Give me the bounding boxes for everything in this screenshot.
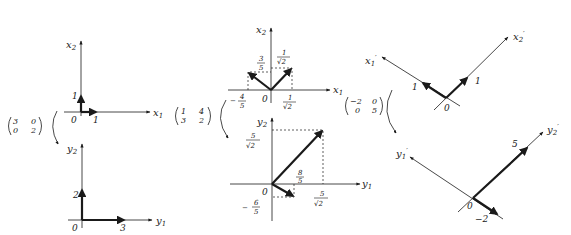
eigen-vector-1 (423, 83, 446, 98)
matrix-entry: 2 (198, 116, 204, 125)
panel-diag-output: y2 y1 2 3 0 (66, 143, 166, 233)
panel-diag-input: x2 x1 1 1 0 (64, 39, 163, 125)
panel-general-input: x2 x1 0 3 5 1 √2 − 4 5 1 √2 (228, 24, 343, 111)
origin-label: 0 (262, 94, 268, 104)
origin-label: 0 (262, 187, 268, 197)
matrix-entry: 4 (198, 107, 204, 116)
frac-num: 5 (320, 190, 325, 198)
vector-left (249, 73, 271, 90)
mapping-arrow (220, 100, 228, 138)
tick-label-b: 5 (512, 139, 518, 149)
matrix-diag: 3 0 0 2 (9, 111, 59, 144)
frac-den: 5 (298, 177, 303, 185)
origin-label: 0 (444, 103, 450, 113)
eigen-vector-2 (446, 78, 467, 98)
y1-axis-label: y1 (155, 215, 166, 228)
x2-axis-label: x2 (66, 39, 77, 52)
image-vector-small (272, 184, 293, 196)
linear-maps-diagram: x2 x1 1 1 0 3 0 0 2 y2 y1 2 3 0 x2 x1 0 (0, 0, 571, 235)
matrix-entry: 0 (372, 97, 377, 106)
matrix-eigen: −2 0 0 5 (346, 90, 397, 133)
y1-axis-label: y1 (361, 178, 372, 191)
frac-den: 5 (240, 102, 245, 110)
frac-den: √2 (246, 142, 255, 150)
frac-den: 5 (254, 208, 259, 216)
matrix-entry: 2 (30, 126, 36, 135)
y2-axis-label: y2 (256, 116, 268, 129)
x2-prime-axis (434, 37, 508, 110)
panel-eigen-output: y1′ y2′ 5 −2 0 (395, 123, 559, 224)
x1-prime-axis-label: x1′ (365, 54, 377, 68)
mapping-arrow (387, 90, 396, 133)
frac-num: 1 (282, 49, 286, 57)
matrix-entry: 3 (13, 117, 18, 126)
origin-label: 0 (72, 223, 78, 233)
origin-label: 0 (467, 201, 473, 211)
frac-den: √2 (314, 200, 323, 208)
matrix-entry: 3 (181, 116, 186, 125)
x1-prime-axis (382, 57, 460, 106)
panel-eigen-input: x1′ x2′ 1 1 0 (365, 30, 525, 113)
tick-label-x: 3 (120, 223, 126, 233)
tick-label-a: 1 (412, 82, 418, 92)
x2-axis-label: x2 (256, 24, 267, 37)
vector-right (271, 69, 291, 90)
matrix-entry: 1 (181, 107, 186, 116)
tick-label-x: 1 (93, 115, 99, 125)
frac-den: √2 (277, 58, 286, 66)
x2-prime-axis-label: x2′ (513, 30, 525, 44)
matrix-entry: 0 (355, 106, 360, 115)
panel-general-output: y2 y1 0 5 √2 8 5 5 √2 − 6 5 (230, 116, 372, 221)
frac-den: √2 (283, 103, 292, 111)
frac-sign: − (242, 204, 248, 212)
frac-num: 8 (298, 169, 303, 177)
y2-axis-label: y2 (66, 143, 78, 156)
tick-label-a: −2 (475, 214, 489, 224)
tick-label-y: 1 (72, 91, 78, 101)
frac-num: 1 (288, 94, 292, 102)
matrix-general: 1 4 3 2 (176, 100, 229, 138)
matrix-entry: −2 (350, 97, 362, 106)
frac-num: 3 (259, 55, 264, 63)
image-eigen-vector-2 (473, 148, 527, 198)
matrix-entry: 0 (31, 117, 36, 126)
matrix-entry: 0 (13, 126, 18, 135)
frac-num: 5 (251, 132, 256, 140)
y2-prime-axis-label: y2′ (546, 123, 559, 137)
x1-axis-label: x1 (153, 107, 163, 120)
mapping-arrow (53, 111, 58, 144)
tick-label-y: 2 (72, 190, 79, 200)
image-vector-big (272, 131, 322, 184)
frac-sign: − (230, 97, 236, 105)
frac-num: 6 (254, 199, 259, 207)
frac-den: 5 (259, 64, 264, 72)
tick-label-b: 1 (475, 76, 481, 86)
image-eigen-vector-1 (473, 198, 497, 214)
origin-label: 0 (71, 115, 77, 125)
matrix-entry: 5 (372, 106, 377, 115)
frac-num: 4 (239, 93, 244, 101)
y1-prime-axis-label: y1′ (395, 147, 408, 161)
x1-axis-label: x1 (333, 84, 343, 97)
